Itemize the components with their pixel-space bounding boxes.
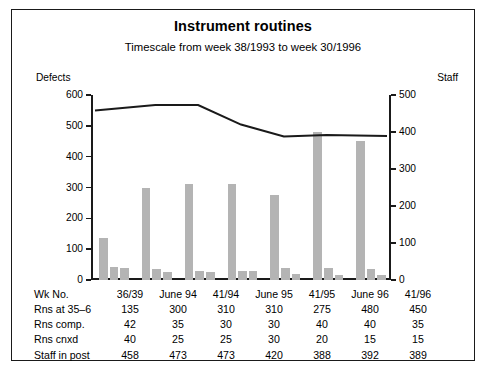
- chart-title: Instrument routines: [12, 18, 474, 34]
- table-cell: 35: [394, 317, 442, 332]
- plot-area: 0100200300400500600 0100200300400500: [91, 95, 391, 280]
- table-cell: 15: [346, 332, 394, 347]
- left-tick-300: [86, 187, 91, 188]
- table-cell: 275: [298, 301, 346, 316]
- right-tick-100: [391, 242, 396, 243]
- table-cell: 300: [154, 301, 202, 316]
- table-cell: 41/95: [298, 286, 346, 301]
- table-cell: 36/39: [106, 286, 154, 301]
- data-table: Wk No.36/39June 9441/94June 9541/95June …: [34, 286, 442, 362]
- left-tick-label-100: 100: [66, 244, 83, 254]
- table-cell: 310: [202, 301, 250, 316]
- bar: [270, 195, 279, 280]
- left-tick-label-500: 500: [66, 121, 83, 131]
- left-tick-600: [86, 94, 91, 95]
- table-cell: 420: [250, 347, 298, 362]
- table-cell: 20: [298, 332, 346, 347]
- bar: [228, 184, 237, 280]
- table-cell: 310: [250, 301, 298, 316]
- left-axis-caption: Defects: [36, 72, 71, 83]
- table-cell: 473: [154, 347, 202, 362]
- table-cell: 35: [154, 317, 202, 332]
- left-tick-label-0: 0: [77, 275, 83, 285]
- bar: [206, 272, 215, 280]
- table-cell: 135: [106, 301, 154, 316]
- left-tick-label-400: 400: [66, 152, 83, 162]
- bar: [313, 132, 322, 280]
- bar: [185, 184, 194, 280]
- table-cell: 40: [346, 317, 394, 332]
- table-row: Rns cnxd40252530201515: [34, 332, 442, 347]
- right-tick-0: [391, 279, 396, 280]
- table-cell: 450: [394, 301, 442, 316]
- bar: [356, 141, 365, 280]
- right-tick-500: [391, 94, 396, 95]
- bar: [163, 272, 172, 280]
- left-tick-100: [86, 248, 91, 249]
- left-tick-200: [86, 218, 91, 219]
- table-cell: 25: [202, 332, 250, 347]
- chart-subtitle: Timescale from week 38/1993 to week 30/1…: [12, 41, 474, 53]
- right-axis-spine: [389, 95, 391, 280]
- table-cell: June 94: [154, 286, 202, 301]
- table-row-label: Rns at 35–6: [34, 301, 106, 316]
- bar: [238, 271, 247, 280]
- bar: [292, 274, 301, 280]
- bar: [120, 268, 129, 280]
- right-tick-label-0: 0: [399, 275, 405, 285]
- table-cell: 480: [346, 301, 394, 316]
- right-tick-label-100: 100: [399, 238, 416, 248]
- left-tick-0: [86, 279, 91, 280]
- table-cell: 41/94: [202, 286, 250, 301]
- table-cell: 41/96: [394, 286, 442, 301]
- table-cell: June 95: [250, 286, 298, 301]
- bar: [377, 275, 386, 280]
- bar: [99, 238, 108, 280]
- table-cell: 458: [106, 347, 154, 362]
- table-row: Staff in post458473473420388392389: [34, 347, 442, 362]
- bar: [110, 267, 119, 280]
- bar: [281, 268, 290, 280]
- left-axis-spine: [91, 95, 93, 280]
- table-cell: 30: [250, 317, 298, 332]
- left-tick-label-200: 200: [66, 213, 83, 223]
- table-row-label: Rns cnxd: [34, 332, 106, 347]
- table-cell: 389: [394, 347, 442, 362]
- bar: [324, 268, 333, 280]
- chart-frame: Instrument routines Timescale from week …: [11, 9, 475, 361]
- table-row-label: Staff in post: [34, 347, 106, 362]
- table-row: Rns at 35–6135300310310275480450: [34, 301, 442, 316]
- table-row: Wk No.36/39June 9441/94June 9541/95June …: [34, 286, 442, 301]
- bar: [367, 269, 376, 280]
- table-cell: 25: [154, 332, 202, 347]
- bar: [152, 269, 161, 280]
- right-tick-300: [391, 168, 396, 169]
- table-cell: 40: [298, 317, 346, 332]
- right-tick-label-300: 300: [399, 164, 416, 174]
- right-tick-400: [391, 131, 396, 132]
- left-tick-500: [86, 125, 91, 126]
- right-tick-200: [391, 205, 396, 206]
- plot-inner: 0100200300400500600 0100200300400500: [91, 95, 391, 280]
- data-table-wrap: Wk No.36/39June 9441/94June 9541/95June …: [12, 286, 474, 362]
- table-cell: 30: [250, 332, 298, 347]
- left-tick-label-300: 300: [66, 183, 83, 193]
- right-axis-caption: Staff: [437, 72, 458, 83]
- table-cell: 388: [298, 347, 346, 362]
- staff-in-post-line: [91, 95, 391, 280]
- bar: [249, 271, 258, 280]
- table-row-label: Rns comp.: [34, 317, 106, 332]
- right-tick-label-400: 400: [399, 127, 416, 137]
- table-cell: 40: [106, 332, 154, 347]
- table-cell: 42: [106, 317, 154, 332]
- table-row: Rns comp.42353030404035: [34, 317, 442, 332]
- table-cell: 392: [346, 347, 394, 362]
- table-cell: 30: [202, 317, 250, 332]
- left-tick-label-600: 600: [66, 90, 83, 100]
- left-tick-400: [86, 156, 91, 157]
- bar: [142, 188, 151, 281]
- table-cell: 473: [202, 347, 250, 362]
- table-cell: June 96: [346, 286, 394, 301]
- table-row-label: Wk No.: [34, 286, 106, 301]
- right-tick-label-500: 500: [399, 90, 416, 100]
